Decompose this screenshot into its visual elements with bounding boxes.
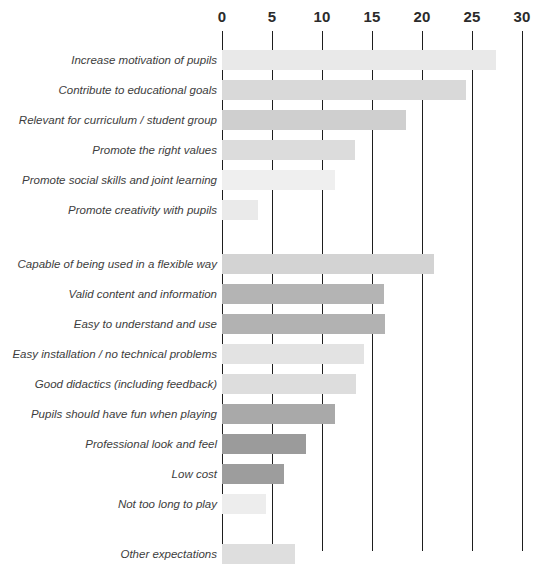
category-label: Professional look and feel xyxy=(85,429,217,459)
chart-rows: Increase motivation of pupilsContribute … xyxy=(0,31,544,551)
category-label: Capable of being used in a flexible way xyxy=(18,249,217,279)
bar xyxy=(222,314,385,334)
bar xyxy=(222,200,258,220)
chart-row: Capable of being used in a flexible way xyxy=(0,249,544,279)
category-label: Not too long to play xyxy=(118,489,217,519)
category-label: Valid content and information xyxy=(68,279,217,309)
x-axis-tick-label: 15 xyxy=(363,8,380,25)
bar xyxy=(222,254,434,274)
bar-chart: 051015202530 Increase motivation of pupi… xyxy=(0,0,544,565)
x-axis-tick-label: 30 xyxy=(513,8,530,25)
chart-row: Pupils should have fun when playing xyxy=(0,399,544,429)
chart-row: Valid content and information xyxy=(0,279,544,309)
chart-row: Increase motivation of pupils xyxy=(0,45,544,75)
category-label: Promote the right values xyxy=(92,135,217,165)
chart-row: Low cost xyxy=(0,459,544,489)
category-label: Pupils should have fun when playing xyxy=(31,399,217,429)
chart-row: Not too long to play xyxy=(0,489,544,519)
bar xyxy=(222,50,496,70)
bar xyxy=(222,374,356,394)
x-axis-tick-label: 5 xyxy=(268,8,277,25)
x-axis-tick-label: 25 xyxy=(463,8,480,25)
x-axis-tick-label: 0 xyxy=(218,8,227,25)
bar xyxy=(222,80,466,100)
x-axis-tick-label: 20 xyxy=(413,8,430,25)
category-label: Contribute to educational goals xyxy=(58,75,217,105)
category-label: Promote creativity with pupils xyxy=(68,195,217,225)
bar xyxy=(222,170,335,190)
bar xyxy=(222,284,384,304)
bar xyxy=(222,140,355,160)
bar xyxy=(222,110,406,130)
category-label: Other expectations xyxy=(120,539,217,565)
chart-row: Easy to understand and use xyxy=(0,309,544,339)
category-label: Easy to understand and use xyxy=(74,309,217,339)
category-label: Low cost xyxy=(172,459,217,489)
chart-row: Easy installation / no technical problem… xyxy=(0,339,544,369)
category-label: Promote social skills and joint learning xyxy=(22,165,217,195)
category-label: Relevant for curriculum / student group xyxy=(19,105,217,135)
bar xyxy=(222,404,335,424)
chart-row: Good didactics (including feedback) xyxy=(0,369,544,399)
category-label: Increase motivation of pupils xyxy=(71,45,217,75)
bar xyxy=(222,344,364,364)
chart-row: Relevant for curriculum / student group xyxy=(0,105,544,135)
category-label: Good didactics (including feedback) xyxy=(35,369,217,399)
chart-row: Promote creativity with pupils xyxy=(0,195,544,225)
chart-row: Contribute to educational goals xyxy=(0,75,544,105)
chart-row: Professional look and feel xyxy=(0,429,544,459)
x-axis-tick-label: 10 xyxy=(313,8,330,25)
category-label: Easy installation / no technical problem… xyxy=(12,339,217,369)
bar xyxy=(222,434,306,454)
chart-row: Promote the right values xyxy=(0,135,544,165)
chart-row: Promote social skills and joint learning xyxy=(0,165,544,195)
bar xyxy=(222,464,284,484)
chart-row: Other expectations xyxy=(0,539,544,565)
bar xyxy=(222,544,295,564)
bar xyxy=(222,494,266,514)
x-axis-tick-labels: 051015202530 xyxy=(0,8,544,32)
